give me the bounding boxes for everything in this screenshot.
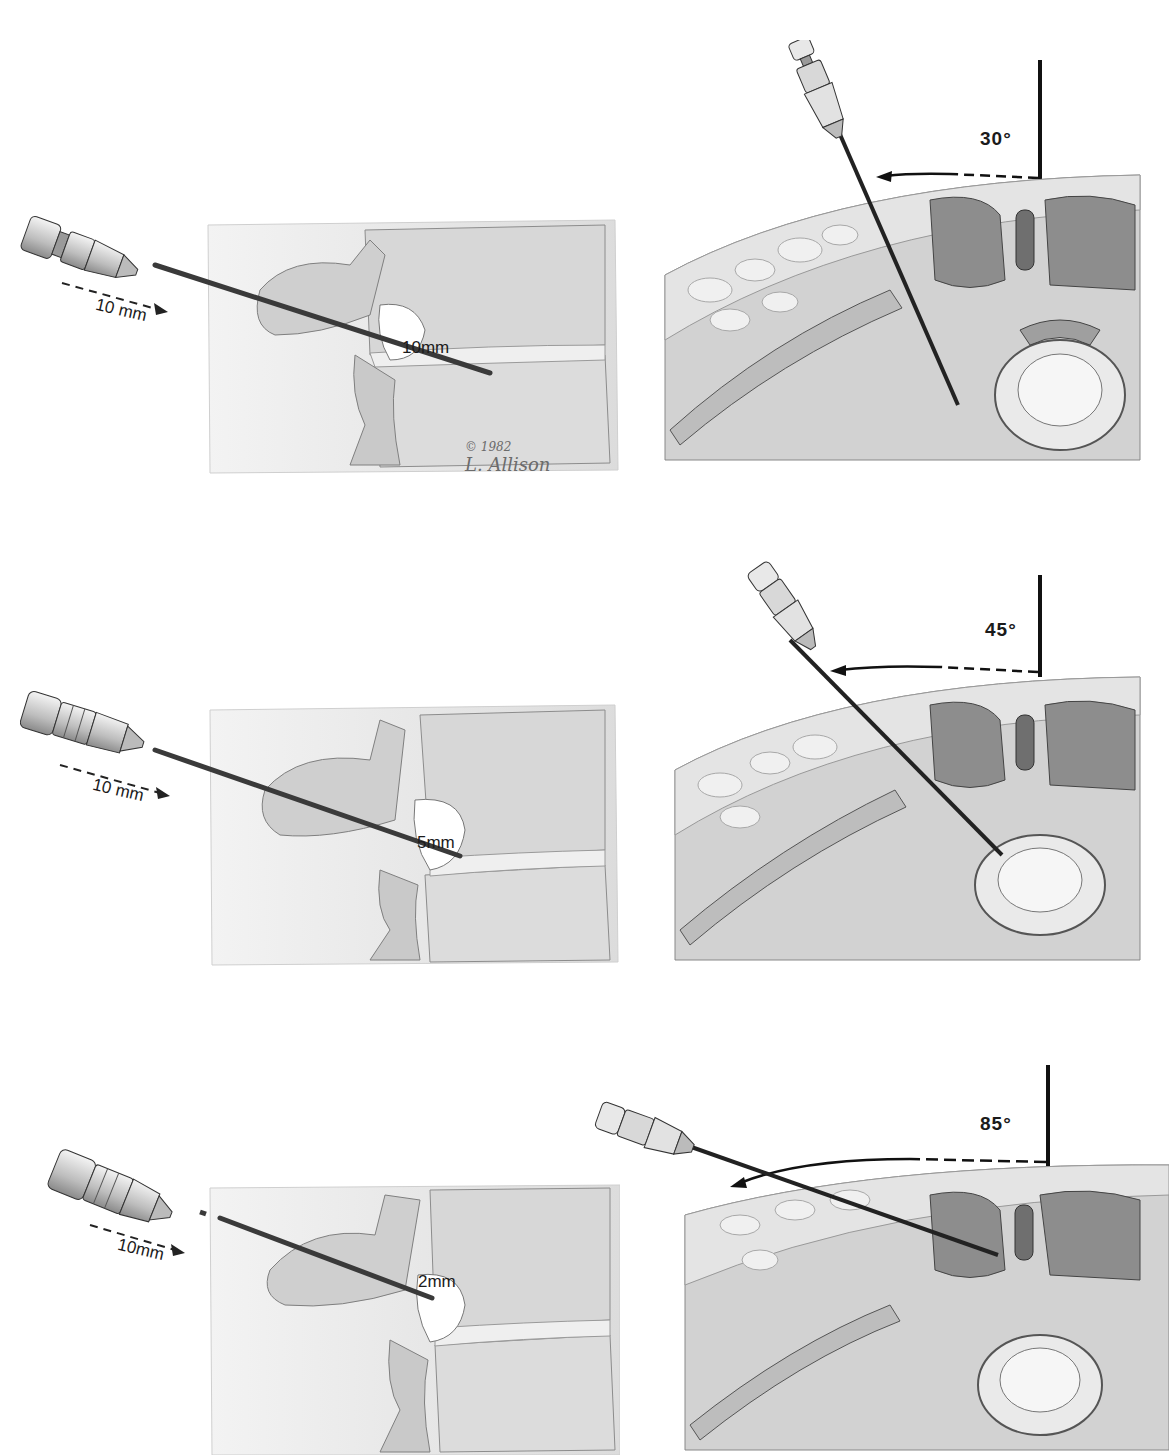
tip-depth-label: 2mm: [418, 1272, 456, 1292]
copyright-text: © 1982: [465, 440, 511, 454]
axial-view-row2: 45°: [640, 555, 1169, 965]
needle-hub-icon: [784, 40, 853, 143]
arrow-head-icon: [730, 1177, 747, 1188]
needle-hub-icon: [20, 215, 143, 289]
lateral-spine-illustration: [20, 195, 620, 480]
arrow-head-icon: [154, 303, 168, 315]
arrow-head-icon: [830, 665, 846, 676]
angle-label: 45°: [985, 619, 1017, 641]
needle-hub-icon: [745, 559, 826, 656]
arrow-head-icon: [876, 171, 892, 182]
needle-hub-icon: [20, 690, 149, 763]
needle-hub-icon: [46, 1148, 179, 1234]
lateral-spine-illustration: [20, 660, 620, 970]
angle-label: 85°: [980, 1113, 1012, 1135]
artist-name: L. Allison: [465, 454, 550, 475]
lateral-spine-illustration: [20, 1100, 620, 1455]
lateral-view-row1: 10 mm 10mm © 1982 L. Allison: [20, 195, 620, 480]
lateral-view-row2: 10 mm 5mm: [20, 660, 620, 970]
tip-depth-label: 10mm: [402, 338, 449, 358]
axial-cross-section-illustration: [640, 555, 1169, 965]
arrow-head-icon: [171, 1244, 185, 1256]
arrow-head-icon: [156, 787, 170, 799]
axial-view-row1: 30°: [640, 40, 1169, 470]
axial-cross-section-illustration: [570, 1055, 1169, 1455]
lateral-view-row3: 10mm 2mm: [20, 1100, 620, 1455]
axial-cross-section-illustration: [640, 40, 1169, 470]
angle-label: 30°: [980, 128, 1012, 150]
artist-signature: © 1982 L. Allison: [465, 440, 550, 475]
needle-hub-icon: [593, 1099, 698, 1163]
tip-depth-label: 5mm: [417, 833, 455, 853]
axial-view-row3: 85°: [570, 1055, 1169, 1455]
